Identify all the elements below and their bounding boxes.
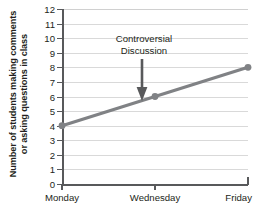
y-axis-tick-label: 11 [45, 18, 55, 29]
x-axis-tick-label: Monday [45, 192, 79, 203]
annotation-controversial-discussion: Controversial Discussion [88, 33, 200, 56]
y-axis-tick-label: 10 [44, 33, 55, 44]
y-axis-tick-label: 9 [50, 47, 55, 58]
data-point-marker [245, 64, 252, 71]
data-point-marker [59, 122, 66, 129]
y-axis-tick-label: 0 [50, 179, 55, 190]
y-axis-tick-label: 1 [50, 164, 55, 175]
y-axis-tick-label: 3 [50, 135, 55, 146]
y-axis-tick-label: 6 [50, 91, 55, 102]
y-axis-title-line-1: Number of students making comments [8, 11, 19, 178]
line-chart: Number of students making comments or as… [0, 0, 263, 214]
x-axis-tick [154, 184, 155, 190]
annotation-line-2: Discussion [88, 45, 200, 57]
y-axis-title-line-2: or asking questions in class [19, 34, 30, 154]
annotation-arrow-down-icon [135, 59, 149, 102]
y-axis-tick-label: 7 [50, 76, 55, 87]
y-axis-tick-label: 4 [50, 120, 55, 131]
annotation-line-1: Controversial [88, 33, 200, 45]
y-axis-tick-label: 8 [50, 62, 55, 73]
y-axis-tick-label: 2 [50, 149, 55, 160]
data-point-marker [152, 93, 159, 100]
x-axis-tick [61, 184, 62, 190]
y-axis-title: Number of students making comments or as… [0, 0, 34, 190]
y-axis-tick-label: 12 [44, 4, 55, 15]
y-axis-tick-label: 5 [50, 106, 55, 117]
x-axis-tick-label: Wednesday [130, 192, 181, 203]
x-axis-tick-label: Friday [225, 192, 252, 203]
